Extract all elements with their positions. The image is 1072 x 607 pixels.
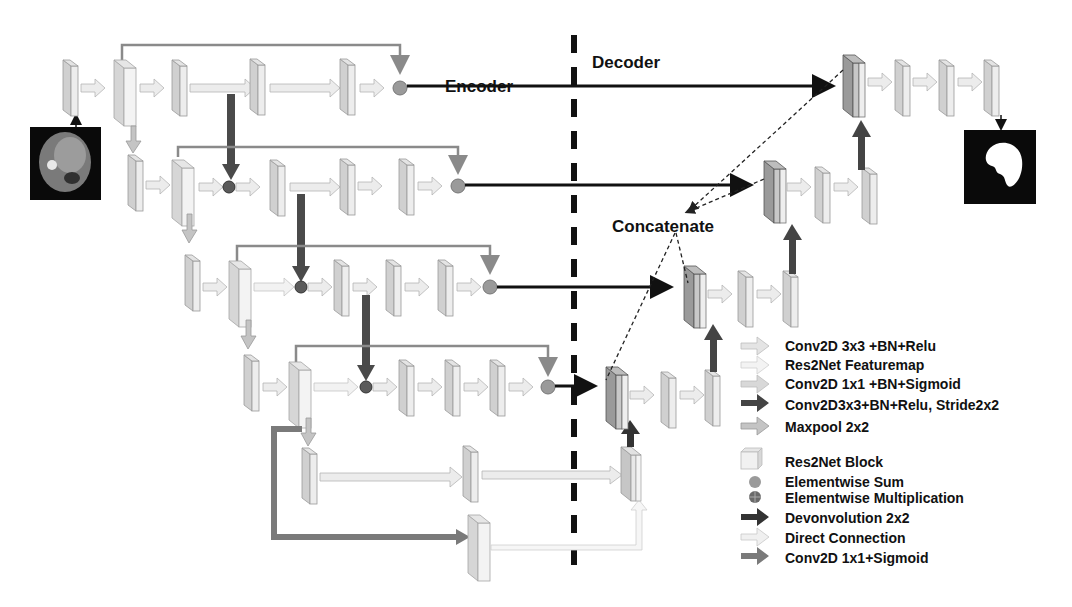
- svg-text:Conv2D3x3+BN+Relu, Stride2x2: Conv2D3x3+BN+Relu, Stride2x2: [785, 397, 999, 413]
- legend-item-maxpool: Maxpool 2x2: [741, 417, 869, 435]
- svg-text:Elementwise Sum: Elementwise Sum: [785, 474, 904, 490]
- legend-item-conv1x1-bn-sigmoid: Conv2D 1x1 +BN+Sigmoid: [741, 375, 961, 393]
- svg-text:Direct Connection: Direct Connection: [785, 530, 906, 546]
- arrow-black-icon: [741, 508, 769, 526]
- svg-text:Elementwise Multiplication: Elementwise Multiplication: [785, 490, 964, 506]
- arrow-medium-gray-icon: [741, 547, 769, 565]
- legend-item-conv1x1-sigmoid: Conv2D 1x1+Sigmoid: [741, 547, 929, 566]
- legend-item-stride-conv: Conv2D3x3+BN+Relu, Stride2x2: [741, 394, 999, 413]
- arrow-light-icon: [741, 337, 769, 355]
- legend: Conv2D 3x3 +BN+Relu Res2Net Featuremap C…: [741, 337, 999, 566]
- output-mask-image: [964, 130, 1036, 204]
- decoder-label: Decoder: [592, 53, 660, 72]
- svg-text:Res2Net Block: Res2Net Block: [785, 454, 883, 470]
- arrow-gray-icon: [741, 417, 769, 435]
- svg-text:Devonvolution 2x2: Devonvolution 2x2: [785, 510, 910, 526]
- network-architecture-diagram: Encoder Decoder Concatenate: [0, 0, 1072, 607]
- legend-item-res2net-featuremap: Res2Net Featuremap: [741, 356, 924, 374]
- circle-mult-icon: [749, 491, 761, 503]
- svg-text:Maxpool 2x2: Maxpool 2x2: [785, 419, 869, 435]
- svg-text:Res2Net Featuremap: Res2Net Featuremap: [785, 357, 924, 373]
- arrow-white-icon: [741, 528, 769, 546]
- legend-item-res2net-block: Res2Net Block: [741, 448, 883, 470]
- legend-item-conv3x3: Conv2D 3x3 +BN+Relu: [741, 337, 936, 355]
- circle-sum-icon: [749, 476, 761, 488]
- svg-text:Conv2D 3x3 +BN+Relu: Conv2D 3x3 +BN+Relu: [785, 338, 936, 354]
- elementwise-mult-node: [223, 181, 235, 193]
- decoder-concat-block: [606, 367, 628, 429]
- input-ct-image: [30, 127, 101, 200]
- arrow-lighter-icon: [741, 356, 769, 374]
- legend-item-elementwise-mult: Elementwise Multiplication: [749, 490, 964, 506]
- res2net-block: [114, 60, 136, 126]
- legend-item-deconvolution: Devonvolution 2x2: [741, 508, 910, 526]
- svg-text:Conv2D 1x1 +BN+Sigmoid: Conv2D 1x1 +BN+Sigmoid: [785, 376, 961, 392]
- elementwise-sum-node: [393, 81, 407, 95]
- concatenate-label: Concatenate: [612, 217, 714, 236]
- cube-icon: [741, 448, 762, 469]
- arrow-light-gray-icon: [741, 375, 769, 393]
- arrow-dark-icon: [741, 394, 769, 412]
- legend-item-direct-connection: Direct Connection: [741, 528, 906, 546]
- svg-text:Conv2D 1x1+Sigmoid: Conv2D 1x1+Sigmoid: [785, 550, 929, 566]
- conv-block: [63, 60, 78, 116]
- legend-item-elementwise-sum: Elementwise Sum: [749, 474, 904, 490]
